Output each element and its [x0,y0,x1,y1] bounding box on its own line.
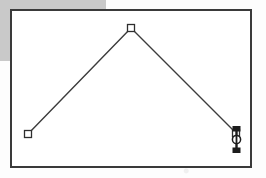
screenshot-root [0,0,266,178]
resize-vertical-cursor [230,126,243,153]
resize-vertical-cursor-icon [230,126,243,153]
canvas-surface[interactable] [12,11,250,166]
gray-overlay-band-text [2,0,104,9]
handle-vertex-left[interactable] [25,131,32,138]
drawing-canvas[interactable] [10,9,252,168]
canvas-vector-layer [12,11,250,166]
polyline-segment-left[interactable] [28,28,131,134]
handle-vertex-apex[interactable] [128,25,135,32]
polyline-segment-right[interactable] [131,28,236,133]
